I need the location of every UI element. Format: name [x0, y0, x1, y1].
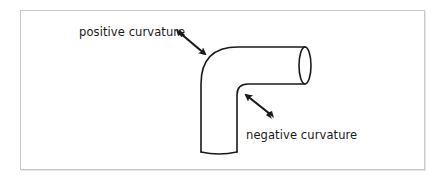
pipe-open-end: [299, 47, 311, 84]
negative-curvature-label: negative curvature: [246, 128, 357, 142]
pipe-bottom-end: [201, 152, 237, 154]
positive-curvature-label: positive curvature: [79, 25, 185, 39]
negative-arrow-icon: [246, 95, 274, 119]
bent-pipe-diagram: [0, 0, 447, 184]
